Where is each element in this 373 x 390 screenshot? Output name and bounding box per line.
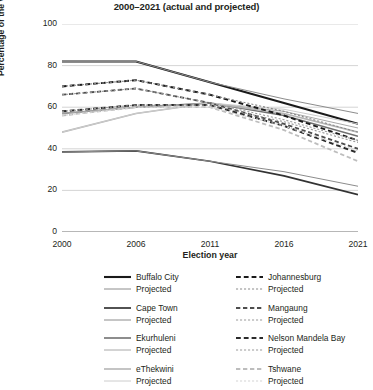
legend-swatch-tshwane-projected bbox=[236, 376, 263, 386]
legend-item-johannesburg-projected[interactable]: Projected bbox=[236, 283, 370, 295]
y-tick-0: 0 bbox=[31, 226, 57, 236]
x-axis-title: Election year bbox=[62, 250, 358, 260]
y-tick-100: 100 bbox=[31, 18, 57, 28]
y-tick-40: 40 bbox=[31, 143, 57, 153]
x-tick-2021: 2021 bbox=[338, 239, 373, 249]
legend-label-cape-town-projected: Projected bbox=[136, 315, 171, 325]
legend-label-ekurhuleni-projected: Projected bbox=[136, 345, 171, 355]
legend-label-ethekwini: eThekwini bbox=[136, 364, 174, 374]
legend-item-cape-town[interactable]: Cape Town bbox=[104, 302, 238, 314]
legend-swatch-nelson-mandela-bay bbox=[236, 333, 263, 343]
series-line-buffalo-city bbox=[62, 61, 358, 123]
legend-swatch-ethekwini bbox=[104, 364, 131, 374]
legend-swatch-cape-town-projected bbox=[104, 315, 131, 325]
y-tick-20: 20 bbox=[31, 184, 57, 194]
legend-label-johannesburg: Johannesburg bbox=[268, 272, 321, 282]
legend-item-ethekwini-projected[interactable]: Projected bbox=[104, 375, 238, 387]
series-line-tshwane-projected bbox=[62, 107, 358, 151]
legend-label-ekurhuleni: Ekurhuleni bbox=[136, 333, 176, 343]
y-axis-title: Percentage of the vote bbox=[0, 0, 6, 76]
legend-group-cape-town: Cape TownProjected bbox=[104, 302, 238, 326]
legend-swatch-ethekwini-projected bbox=[104, 376, 131, 386]
legend-item-tshwane[interactable]: Tshwane bbox=[236, 363, 370, 375]
series-line-cape-town-projected bbox=[62, 151, 358, 186]
series-line-cape-town bbox=[62, 151, 358, 195]
legend-item-ekurhuleni[interactable]: Ekurhuleni bbox=[104, 332, 238, 344]
legend-item-johannesburg[interactable]: Johannesburg bbox=[236, 271, 370, 283]
legend-column-left: Buffalo CityProjectedCape TownProjectedE… bbox=[104, 271, 238, 390]
y-tick-80: 80 bbox=[31, 60, 57, 70]
legend-swatch-ekurhuleni-projected bbox=[104, 345, 131, 355]
plot-area bbox=[62, 24, 358, 232]
legend-item-nelson-mandela-bay[interactable]: Nelson Mandela Bay bbox=[236, 332, 370, 344]
legend-label-buffalo-city: Buffalo City bbox=[136, 272, 179, 282]
y-tick-60: 60 bbox=[31, 101, 57, 111]
plot-svg bbox=[62, 24, 358, 232]
legend-label-cape-town: Cape Town bbox=[136, 303, 178, 313]
legend-label-nelson-mandela-bay: Nelson Mandela Bay bbox=[268, 333, 345, 343]
legend-item-cape-town-projected[interactable]: Projected bbox=[104, 314, 238, 326]
legend-item-buffalo-city-projected[interactable]: Projected bbox=[104, 283, 238, 295]
legend-swatch-nelson-mandela-bay-projected bbox=[236, 345, 263, 355]
legend-label-tshwane: Tshwane bbox=[268, 364, 301, 374]
legend-item-ekurhuleni-projected[interactable]: Projected bbox=[104, 344, 238, 356]
legend-item-buffalo-city[interactable]: Buffalo City bbox=[104, 271, 238, 283]
legend-label-nelson-mandela-bay-projected: Projected bbox=[268, 345, 303, 355]
legend-group-tshwane: TshwaneProjected bbox=[236, 363, 370, 387]
series-line-mangaung bbox=[62, 88, 358, 148]
x-tick-2016: 2016 bbox=[264, 239, 304, 249]
legend-label-ethekwini-projected: Projected bbox=[136, 376, 171, 386]
legend-swatch-buffalo-city-projected bbox=[104, 284, 131, 294]
legend-item-nelson-mandela-bay-projected[interactable]: Projected bbox=[236, 344, 370, 356]
legend-item-mangaung-projected[interactable]: Projected bbox=[236, 314, 370, 326]
legend-column-right: JohannesburgProjectedMangaungProjectedNe… bbox=[236, 271, 370, 390]
legend-group-nelson-mandela-bay: Nelson Mandela BayProjected bbox=[236, 332, 370, 356]
legend-swatch-johannesburg-projected bbox=[236, 284, 263, 294]
chart-title: 2000–2021 (actual and projected) bbox=[0, 1, 373, 12]
legend-swatch-cape-town bbox=[104, 303, 131, 313]
legend-label-johannesburg-projected: Projected bbox=[268, 284, 303, 294]
legend-group-ekurhuleni: EkurhuleniProjected bbox=[104, 332, 238, 356]
legend-item-tshwane-projected[interactable]: Projected bbox=[236, 375, 370, 387]
legend-group-mangaung: MangaungProjected bbox=[236, 302, 370, 326]
legend-label-mangaung: Mangaung bbox=[268, 303, 308, 313]
x-tick-2000: 2000 bbox=[42, 239, 82, 249]
x-tick-2011: 2011 bbox=[190, 239, 230, 249]
legend-swatch-tshwane bbox=[236, 364, 263, 374]
legend-swatch-buffalo-city bbox=[104, 272, 131, 282]
legend-group-ethekwini: eThekwiniProjected bbox=[104, 363, 238, 387]
legend-label-mangaung-projected: Projected bbox=[268, 315, 303, 325]
chart-legend: Buffalo CityProjectedCape TownProjectedE… bbox=[104, 271, 373, 381]
legend-swatch-mangaung bbox=[236, 303, 263, 313]
x-tick-2006: 2006 bbox=[116, 239, 156, 249]
legend-item-mangaung[interactable]: Mangaung bbox=[236, 302, 370, 314]
legend-swatch-mangaung-projected bbox=[236, 315, 263, 325]
legend-label-tshwane-projected: Projected bbox=[268, 376, 303, 386]
legend-item-ethekwini[interactable]: eThekwini bbox=[104, 363, 238, 375]
legend-label-buffalo-city-projected: Projected bbox=[136, 284, 171, 294]
legend-group-johannesburg: JohannesburgProjected bbox=[236, 271, 370, 295]
legend-swatch-ekurhuleni bbox=[104, 333, 131, 343]
legend-group-buffalo-city: Buffalo CityProjected bbox=[104, 271, 238, 295]
series-line-mangaung-projected bbox=[62, 88, 358, 140]
legend-swatch-johannesburg bbox=[236, 272, 263, 282]
